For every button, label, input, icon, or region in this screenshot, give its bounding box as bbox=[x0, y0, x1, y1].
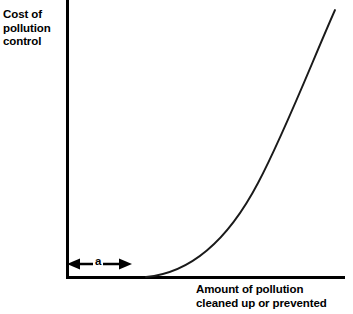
y-axis-label: Cost of pollution control bbox=[3, 8, 51, 49]
chart-background bbox=[0, 0, 353, 314]
pollution-cost-chart bbox=[0, 0, 353, 314]
segment-a-label: a bbox=[93, 255, 103, 268]
x-axis-label: Amount of pollution cleaned up or preven… bbox=[196, 283, 327, 310]
